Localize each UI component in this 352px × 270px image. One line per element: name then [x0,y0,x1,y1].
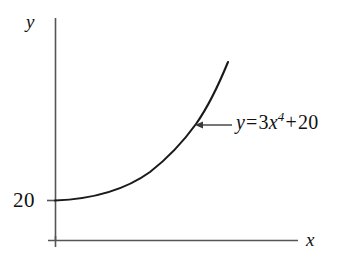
quartic-curve [55,62,228,201]
equation-exponent: 4 [278,109,285,124]
equation-annotation: y=3x4+20 [236,112,318,132]
equation-y-variable: y [236,111,245,133]
equation-plus-sign: + [285,111,298,133]
equation-coefficient: 3 [259,111,269,133]
quartic-function-figure: y x 20 y=3x4+20 [0,0,352,270]
equation-equals-sign: = [245,111,258,133]
x-axis-label: x [306,230,314,249]
plot-canvas [0,0,352,270]
equation-x-variable: x [269,111,278,133]
y-axis-label: y [26,12,34,31]
y-intercept-label: 20 [13,190,35,211]
equation-constant: 20 [298,111,318,133]
